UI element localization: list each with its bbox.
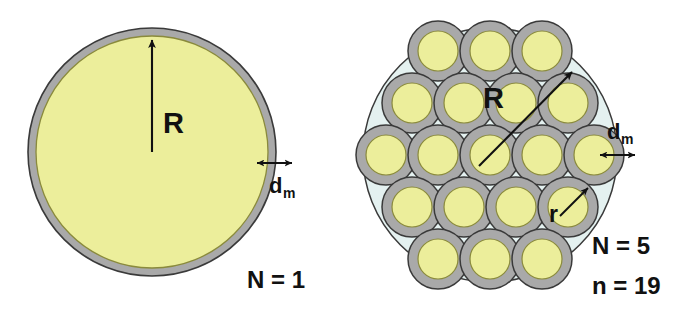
bundle-fiber-count-label: n = 19: [592, 272, 661, 299]
fiber-lumen: [392, 187, 432, 227]
bundle-fiber: [408, 21, 468, 81]
fiber-lumen: [470, 31, 510, 71]
fiber-lumen: [444, 187, 484, 227]
fiber-lumen: [366, 135, 406, 175]
bundle-fiber: [512, 229, 572, 289]
bundle-fiber: [356, 125, 416, 185]
bundle-radius-label: R: [483, 82, 504, 114]
fiber-lumen: [444, 83, 484, 123]
bundle-fiber: [460, 229, 520, 289]
fiber-lumen: [418, 31, 458, 71]
bundle-fiber-radius-label: r: [549, 201, 558, 227]
figure-canvas: R dm N = 1: [0, 0, 688, 316]
single-fiber-count-label: N = 1: [247, 266, 305, 293]
fiber-lumen: [522, 135, 562, 175]
bundle-fiber: [486, 177, 546, 237]
fiber-lumen: [418, 135, 458, 175]
bundle-fiber: [408, 125, 468, 185]
bundle-ring-count-label: N = 5: [592, 232, 650, 259]
fiber-lumen: [418, 239, 458, 279]
bundle-fiber: [382, 177, 442, 237]
bundle-fiber: [512, 21, 572, 81]
bundle-fiber: [408, 229, 468, 289]
bundle-fiber: [538, 73, 598, 133]
bundle-fiber: [460, 21, 520, 81]
fiber-lumen: [522, 239, 562, 279]
fiber-lumen: [496, 187, 536, 227]
bundle-fiber: [434, 177, 494, 237]
fiber-lumen: [392, 83, 432, 123]
membrane-cross-section-figure: R dm N = 1: [0, 0, 688, 316]
fiber-lumen: [470, 239, 510, 279]
single-fiber-radius-label: R: [163, 107, 184, 139]
fiber-lumen: [522, 31, 562, 71]
bundle-fiber: [382, 73, 442, 133]
bundle-fiber: [512, 125, 572, 185]
